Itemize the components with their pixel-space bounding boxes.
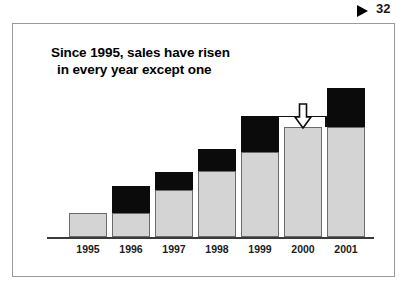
bar-1997[interactable]: [155, 172, 193, 237]
play-triangle-icon[interactable]: [357, 5, 368, 17]
bar-1997-increase-segment: [155, 172, 193, 190]
bar-chart: 1995 1996 1997 1998 1999 2000 2001: [47, 64, 377, 259]
x-axis-line: [47, 237, 374, 239]
bar-1996-increase-segment: [112, 186, 150, 213]
x-label-2001: 2001: [327, 243, 365, 255]
bar-group: [69, 85, 369, 237]
bar-1996[interactable]: [112, 186, 150, 237]
bar-2001-base-segment: [327, 127, 365, 237]
x-label-1998: 1998: [198, 243, 236, 255]
page-number: 32: [376, 1, 390, 16]
bar-1999[interactable]: [241, 116, 279, 237]
bar-2000[interactable]: [284, 127, 322, 237]
bar-1998-base-segment: [198, 171, 236, 237]
hollow-down-arrow-icon: [294, 103, 312, 129]
title-line-1: Since 1995, sales have risen: [51, 44, 351, 61]
bar-1995[interactable]: [69, 213, 107, 237]
bar-1998[interactable]: [198, 149, 236, 237]
x-label-1999: 1999: [241, 243, 279, 255]
bar-2000-base-segment: [284, 127, 322, 237]
bar-1996-base-segment: [112, 213, 150, 237]
top-marker-bar: 32: [0, 0, 408, 22]
bar-1995-base-segment: [69, 213, 107, 237]
x-label-2000: 2000: [284, 243, 322, 255]
x-label-1995: 1995: [69, 243, 107, 255]
bar-2001[interactable]: [327, 88, 365, 237]
bar-2001-increase-segment: [327, 88, 365, 127]
slide-frame: Since 1995, sales have risen in every ye…: [12, 23, 395, 277]
x-label-1996: 1996: [112, 243, 150, 255]
bar-1998-increase-segment: [198, 149, 236, 171]
x-axis-labels: 1995 1996 1997 1998 1999 2000 2001: [69, 241, 369, 259]
bar-1999-base-segment: [241, 152, 279, 237]
reference-line-drop-tick: [325, 116, 327, 127]
bar-1999-increase-segment: [241, 116, 279, 152]
x-label-1997: 1997: [155, 243, 193, 255]
bar-1997-base-segment: [155, 190, 193, 237]
